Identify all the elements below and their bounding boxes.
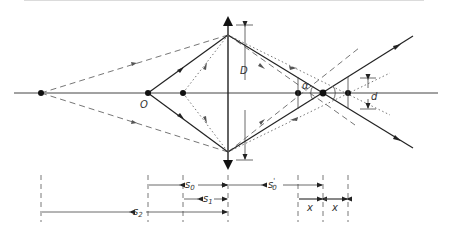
dimension-s0: s0 [149, 179, 227, 192]
svg-text:s'0: s'0 [268, 177, 277, 192]
svg-text:x: x [331, 202, 338, 213]
extension-lines [41, 175, 348, 222]
dashed-ray-arrow-icon [259, 119, 265, 125]
image-point [320, 90, 327, 97]
label-D: D [240, 65, 248, 76]
label-alpha: α [302, 80, 309, 91]
svg-text:s2: s2 [133, 206, 143, 219]
dotted-ray-arrow-icon [290, 117, 298, 121]
svg-text:x: x [306, 202, 313, 213]
solid-ray-arrow-icon [177, 113, 184, 119]
dotted-ray-arrow-icon [203, 62, 207, 70]
far-object-point [38, 90, 44, 96]
cutoff-text-fragment [24, 0, 424, 1]
dimension-x-right: x [324, 199, 347, 213]
near-object-point [180, 90, 186, 96]
dashed-ray-arrow-icon [258, 63, 265, 69]
label-O: O [140, 99, 148, 110]
optics-diagram: D O α [0, 0, 449, 235]
solid-ray-arrow-icon [177, 67, 184, 73]
dashed-ray-arrow-icon [131, 120, 137, 124]
dimension-s1: s1 [184, 193, 227, 206]
dotted-ray-arrow-icon [203, 116, 207, 124]
solid-ray-arrow-icon [393, 44, 401, 50]
svg-text:s0: s0 [185, 179, 195, 192]
dashed-ray-arrow-icon [131, 62, 137, 66]
dimension-s2: s2 [42, 206, 227, 219]
label-d: d [371, 91, 378, 102]
lens-bottom-arrow-icon [223, 160, 233, 170]
lens-top-arrow-icon [223, 16, 233, 26]
svg-text:s1: s1 [203, 193, 213, 206]
dimension-x-left: x [299, 199, 322, 213]
dimension-s0-prime: s'0 [221, 177, 322, 192]
object-point-O [145, 90, 151, 96]
